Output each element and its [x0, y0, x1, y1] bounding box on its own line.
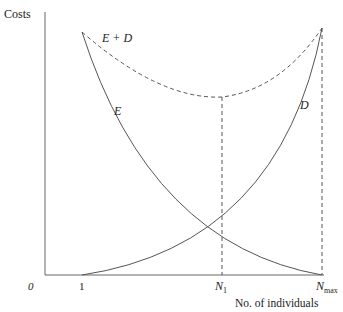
x-tick-1: 1	[79, 281, 85, 292]
x-tick-nmax-main: N	[316, 279, 324, 293]
x-tick-nmax: Nmax	[316, 280, 338, 295]
x-tick-n1-main: N	[215, 279, 223, 293]
curve-label-e: E	[114, 105, 121, 117]
x-tick-nmax-sub: max	[324, 286, 338, 295]
x-tick-n1: N1	[215, 280, 227, 295]
origin-label: 0	[28, 281, 34, 292]
x-tick-n1-sub: 1	[223, 286, 227, 295]
x-axis-label: No. of individuals	[235, 298, 318, 310]
y-axis-label: Costs	[4, 8, 31, 20]
curve-label-e-plus-d: E + D	[102, 32, 132, 44]
curve-e	[82, 32, 322, 275]
curve-label-d: D	[300, 99, 309, 111]
cost-diagram	[0, 0, 343, 312]
curve-d	[82, 28, 322, 275]
